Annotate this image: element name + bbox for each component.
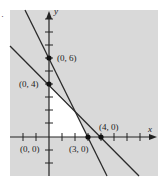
bullet-marker: ·: [1, 11, 4, 21]
label-0-6: (0, 6): [57, 53, 77, 63]
point-0-4: [46, 81, 51, 86]
label-0-0: (0, 0): [20, 144, 40, 154]
label-4-0: (4, 0): [99, 122, 119, 132]
point-0-6: [46, 55, 51, 60]
point-4-0: [98, 134, 103, 139]
y-axis-label: y: [53, 6, 58, 16]
x-axis-label: x: [147, 124, 152, 134]
feasible-region-diagram: y x (0, 6) (0, 4) (0, 0) (3, 0) (4, 0) ·: [0, 0, 164, 182]
label-0-4: (0, 4): [19, 79, 39, 89]
label-3-0: (3, 0): [69, 144, 89, 154]
point-3-0: [85, 134, 90, 139]
